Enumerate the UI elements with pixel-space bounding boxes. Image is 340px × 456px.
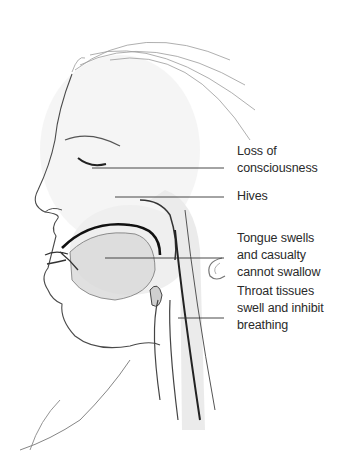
airway [154, 300, 178, 420]
label-hives: Hives [237, 188, 268, 205]
ear-inner [215, 263, 220, 274]
label-tongue-swells: Tongue swells and casualty cannot swallo… [237, 230, 320, 281]
head-anatomy-illustration [0, 0, 340, 456]
epiglottis [150, 286, 162, 306]
label-throat-tissues: Throat tissues swell and inhibit breathi… [237, 283, 324, 334]
shoulder [30, 400, 60, 450]
label-loss-of-consciousness: Loss of consciousness [237, 143, 318, 177]
ear [209, 258, 225, 279]
neck-front [20, 360, 130, 450]
tongue [70, 233, 155, 300]
